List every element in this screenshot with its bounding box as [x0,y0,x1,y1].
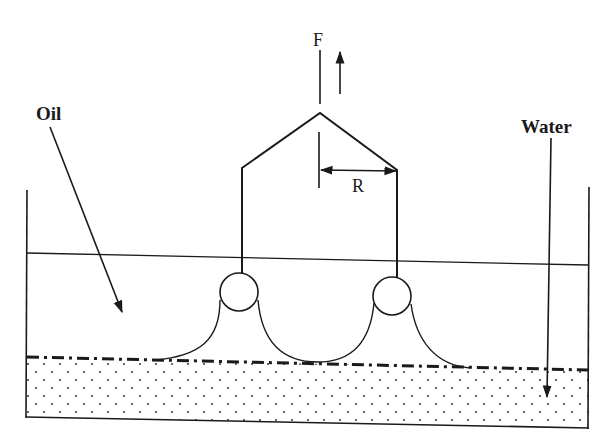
oil-label: Oil [36,103,61,124]
meniscus-curve [155,300,470,368]
oil-pointer-arrow-icon [50,127,122,312]
left-ring [220,273,258,311]
water-pointer-arrow-icon [547,138,551,397]
oil-surface-line [27,253,588,265]
right-ring [373,277,411,315]
force-label: F [313,30,323,50]
right-wall [588,187,589,429]
water-label: Water [521,116,572,137]
diagram-canvas: F R Oil Water [0,0,606,448]
radius-label: R [352,176,364,196]
radius-dimension-arrow-icon [321,170,396,171]
left-wall [26,190,27,418]
oil-water-ring-tensiometer-diagram: F R Oil Water [0,0,606,448]
